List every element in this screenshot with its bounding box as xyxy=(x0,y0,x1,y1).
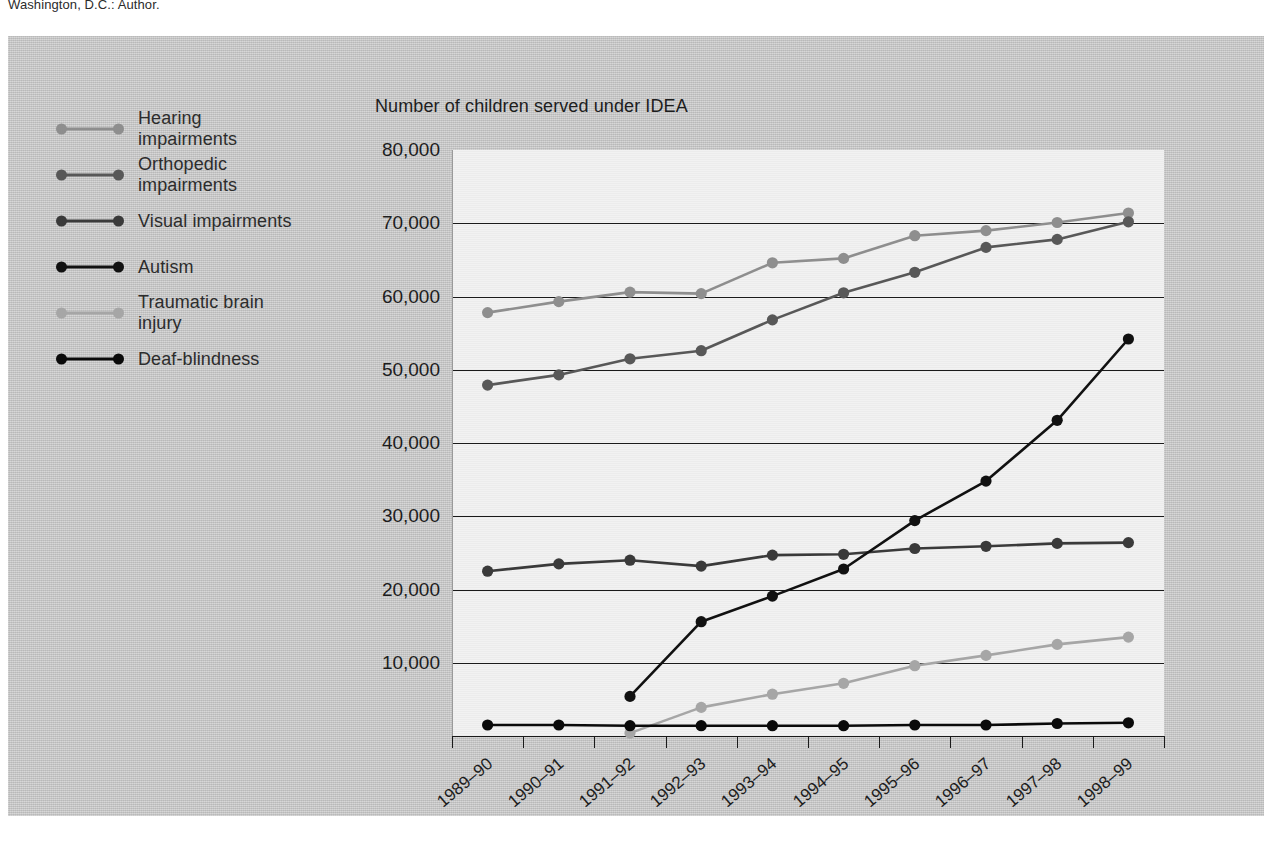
legend-swatch-orthopedic xyxy=(56,165,124,185)
x-tick-7 xyxy=(950,736,951,748)
series-line-deaf-blindness xyxy=(488,723,1129,726)
chart-legend: Hearing impairmentsOrthopedic impairment… xyxy=(56,108,356,384)
data-point xyxy=(767,257,778,268)
data-point xyxy=(838,678,849,689)
y-tick-label-30000: 30,000 xyxy=(382,505,440,527)
data-point xyxy=(909,230,920,241)
data-point xyxy=(838,549,849,560)
x-tick-3 xyxy=(666,736,667,748)
data-point xyxy=(553,719,564,730)
figure-panel: Hearing impairmentsOrthopedic impairment… xyxy=(8,36,1264,816)
data-point xyxy=(1123,632,1134,643)
data-point xyxy=(838,287,849,298)
y-tick-label-50000: 50,000 xyxy=(382,359,440,381)
figure-root: Washington, D.C.: Author. Hearing impair… xyxy=(0,0,1272,857)
x-tick-6 xyxy=(879,736,880,748)
y-tick-label-20000: 20,000 xyxy=(382,579,440,601)
series-line-hearing-impairments xyxy=(488,213,1129,313)
data-point xyxy=(624,555,635,566)
data-point xyxy=(1052,415,1063,426)
legend-label-tbi: Traumatic brain injury xyxy=(138,292,264,333)
legend-label-deafblind: Deaf-blindness xyxy=(138,349,259,370)
data-point xyxy=(909,543,920,554)
x-tick-4 xyxy=(737,736,738,748)
plot-wrapper: 10,00020,00030,00040,00050,00060,00070,0… xyxy=(452,150,1164,736)
data-point xyxy=(696,345,707,356)
data-point xyxy=(482,380,493,391)
data-point xyxy=(1052,639,1063,650)
data-point xyxy=(624,353,635,364)
y-tick-label-80000: 80,000 xyxy=(382,139,440,161)
data-point xyxy=(980,225,991,236)
series-layer xyxy=(452,150,1164,736)
series-line-traumatic-brain-injury xyxy=(630,637,1128,733)
series-line-orthopedic-impairments xyxy=(488,222,1129,385)
data-point xyxy=(767,314,778,325)
legend-label-orthopedic: Orthopedic impairments xyxy=(138,154,237,195)
data-point xyxy=(1123,717,1134,728)
data-point xyxy=(1052,217,1063,228)
data-point xyxy=(1123,216,1134,227)
data-point xyxy=(767,689,778,700)
legend-item-visual: Visual impairments xyxy=(56,200,356,242)
data-point xyxy=(909,267,920,278)
data-point xyxy=(909,515,920,526)
data-point xyxy=(482,719,493,730)
data-point xyxy=(1052,718,1063,729)
legend-swatch-autism xyxy=(56,257,124,277)
x-tick-5 xyxy=(808,736,809,748)
data-point xyxy=(838,563,849,574)
legend-swatch-deafblind xyxy=(56,349,124,369)
data-point xyxy=(909,719,920,730)
x-tick-10 xyxy=(1164,736,1165,748)
legend-item-hearing: Hearing impairments xyxy=(56,108,356,150)
data-point xyxy=(1052,234,1063,245)
data-point xyxy=(767,550,778,561)
data-point xyxy=(624,720,635,731)
data-point xyxy=(482,566,493,577)
data-point xyxy=(767,720,778,731)
y-tick-label-60000: 60,000 xyxy=(382,286,440,308)
data-point xyxy=(1123,537,1134,548)
data-point xyxy=(553,558,564,569)
legend-swatch-tbi xyxy=(56,303,124,323)
data-point xyxy=(980,650,991,661)
legend-item-orthopedic: Orthopedic impairments xyxy=(56,154,356,196)
data-point xyxy=(696,288,707,299)
chart-title: Number of children served under IDEA xyxy=(375,96,688,117)
data-point xyxy=(909,660,920,671)
data-point xyxy=(980,541,991,552)
data-point xyxy=(696,616,707,627)
y-tick-label-10000: 10,000 xyxy=(382,652,440,674)
legend-label-visual: Visual impairments xyxy=(138,211,292,232)
data-point xyxy=(838,253,849,264)
x-tick-1 xyxy=(523,736,524,748)
data-point xyxy=(553,296,564,307)
x-tick-0 xyxy=(452,736,453,748)
data-point xyxy=(767,591,778,602)
data-point xyxy=(696,702,707,713)
legend-label-autism: Autism xyxy=(138,257,194,278)
legend-label-hearing: Hearing impairments xyxy=(138,108,237,149)
data-point xyxy=(980,476,991,487)
legend-item-deafblind: Deaf-blindness xyxy=(56,338,356,380)
legend-item-autism: Autism xyxy=(56,246,356,288)
legend-swatch-hearing xyxy=(56,119,124,139)
data-point xyxy=(553,369,564,380)
data-point xyxy=(624,691,635,702)
data-point xyxy=(1123,333,1134,344)
data-point xyxy=(696,561,707,572)
data-point xyxy=(624,287,635,298)
x-tick-9 xyxy=(1093,736,1094,748)
x-tick-2 xyxy=(594,736,595,748)
data-point xyxy=(696,720,707,731)
legend-swatch-visual xyxy=(56,211,124,231)
y-tick-label-40000: 40,000 xyxy=(382,432,440,454)
data-point xyxy=(980,242,991,253)
data-point xyxy=(980,719,991,730)
page-header-text: Washington, D.C.: Author. xyxy=(8,0,160,12)
y-tick-label-70000: 70,000 xyxy=(382,212,440,234)
series-line-visual-impairments xyxy=(488,543,1129,572)
data-point xyxy=(1052,538,1063,549)
legend-item-tbi: Traumatic brain injury xyxy=(56,292,356,334)
